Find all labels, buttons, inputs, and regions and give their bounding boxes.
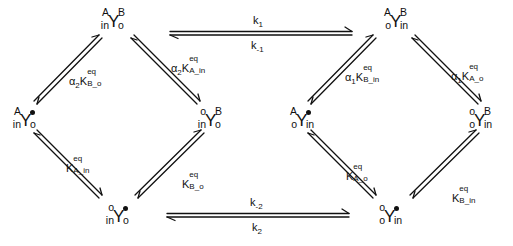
- rate-k-minus-1: k-1: [251, 39, 264, 56]
- right-cycle-bottom-right-arrows: [410, 130, 479, 198]
- k-symbol: K: [182, 178, 189, 190]
- node-label-bottom-right: in: [394, 215, 402, 226]
- k-superscript: eq: [459, 183, 468, 195]
- k-symbol: K: [452, 192, 459, 204]
- k-superscript: eq: [189, 53, 198, 65]
- empty-site-dot-icon: [123, 206, 128, 211]
- node-label-bottom-right: in: [400, 20, 408, 31]
- node-label-bottom-right: in: [484, 119, 492, 130]
- k-symbol: K: [462, 70, 469, 82]
- k-superscript: eq: [469, 61, 478, 73]
- node-label-top-right: B: [400, 7, 407, 18]
- right-cycle-left-bottom-arrows: [308, 130, 376, 198]
- node-label-top-right: [30, 106, 35, 117]
- right-cycle-bottom-right-constant: KeqB_in: [452, 190, 485, 204]
- k-subscript: B_in: [363, 74, 379, 86]
- k-symbol: K: [356, 71, 363, 83]
- k-superscript: eq: [189, 169, 198, 181]
- k-symbol: K: [66, 162, 73, 174]
- rate-subscript: 1: [259, 20, 263, 29]
- left-cycle-left-top-constant: α2KeqB_o: [69, 73, 113, 92]
- k-subscript: A_in: [189, 65, 205, 77]
- empty-site-dot-icon: [306, 110, 311, 115]
- right-cycle-left-top-constant: α1KeqB_in: [345, 69, 389, 88]
- k-symbol: K: [182, 62, 189, 74]
- k-superscript: eq: [353, 161, 362, 173]
- k-superscript: eq: [363, 62, 372, 74]
- k-subscript: A_in: [73, 165, 89, 177]
- rate-subscript: -2: [256, 202, 263, 211]
- k-symbol: K: [80, 75, 87, 87]
- node-label-top-right: [123, 202, 128, 213]
- rate-subscript: -1: [257, 45, 264, 54]
- rate-k1: k1: [253, 14, 263, 31]
- empty-site-dot-icon: [394, 206, 399, 211]
- left-cycle-bottom-right-constant: KeqB_o: [182, 176, 215, 190]
- node-label-top-right: B: [118, 7, 125, 18]
- right-cycle-top-right-constant: α1KeqA_o: [451, 68, 495, 87]
- k-subscript: B_o: [87, 78, 101, 90]
- rate-subscript: 2: [258, 227, 262, 236]
- rate-k-minus-2: k-2: [250, 196, 263, 213]
- rate-k2: k2: [252, 221, 262, 238]
- node-label-bottom-right: o: [123, 215, 129, 226]
- node-label-top-right: B: [484, 106, 491, 117]
- k-subscript: A_o: [353, 173, 367, 185]
- node-label-bottom-right: in: [306, 119, 314, 130]
- node-label-top-right: [306, 106, 311, 117]
- node-label-bottom-right: o: [30, 119, 36, 130]
- node-label-bottom-right: o: [118, 20, 124, 31]
- k-superscript: eq: [73, 153, 82, 165]
- k-subscript: A_o: [469, 73, 483, 85]
- left-cycle-left-bottom-constant: KeqA_in: [66, 160, 99, 174]
- node-label-top-right: B: [215, 106, 222, 117]
- k-subscript: B_o: [189, 181, 203, 193]
- k-superscript: eq: [87, 66, 96, 78]
- k-subscript: B_in: [459, 195, 475, 207]
- node-label-top-right: [394, 202, 399, 213]
- node-label-bottom-right: o: [215, 119, 221, 130]
- right-cycle-left-bottom-constant: KeqA_o: [346, 168, 379, 182]
- k-symbol: K: [346, 170, 353, 182]
- left-cycle-top-right-constant: α2KeqA_in: [171, 60, 215, 79]
- empty-site-dot-icon: [30, 110, 35, 115]
